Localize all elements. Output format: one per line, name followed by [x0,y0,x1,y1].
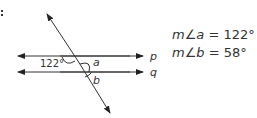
angle-label-a: a [93,56,100,69]
answer-b: m∠b = 58° [172,45,247,60]
line-label-q: q [150,66,157,79]
transversal [47,14,78,61]
answer-a-value: 122° [223,27,254,42]
problem-number-marker [1,10,3,16]
answer-b-var: m∠b [172,45,205,60]
answer-a-var: m∠a [172,27,204,42]
angle-label-b: b [93,74,100,87]
answer-a: m∠a = 122° [172,27,255,42]
angle-label-122: 122° [40,58,64,69]
line-label-p: p [149,50,157,63]
answer-b-equals: = [209,45,220,60]
answer-b-value: 58° [224,45,247,60]
answer-a-equals: = [208,27,219,42]
